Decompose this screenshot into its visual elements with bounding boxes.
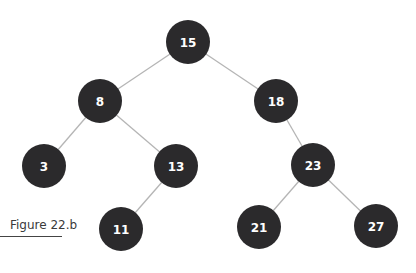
tree-node-21: 21 <box>237 205 281 249</box>
node-label: 13 <box>168 160 185 174</box>
tree-node-27: 27 <box>354 204 398 248</box>
figure-caption: Figure 22.b <box>10 218 77 232</box>
node-label: 23 <box>305 159 322 173</box>
tree-node-11: 11 <box>99 207 143 251</box>
tree-node-23: 23 <box>291 143 335 187</box>
tree-nodes: 1581831323112127 <box>22 20 398 251</box>
node-label: 3 <box>40 160 48 174</box>
node-label: 21 <box>251 221 268 235</box>
tree-node-15: 15 <box>166 20 210 64</box>
node-label: 11 <box>113 223 130 237</box>
tree-node-13: 13 <box>154 144 198 188</box>
tree-node-3: 3 <box>22 144 66 188</box>
node-label: 27 <box>368 220 385 234</box>
node-label: 15 <box>180 36 197 50</box>
tree-edges <box>44 42 376 229</box>
tree-node-8: 8 <box>78 79 122 123</box>
tree-node-18: 18 <box>254 79 298 123</box>
node-label: 8 <box>96 95 104 109</box>
caption-underline <box>0 236 62 237</box>
node-label: 18 <box>268 95 285 109</box>
tree-diagram: 1581831323112127 <box>0 0 416 273</box>
